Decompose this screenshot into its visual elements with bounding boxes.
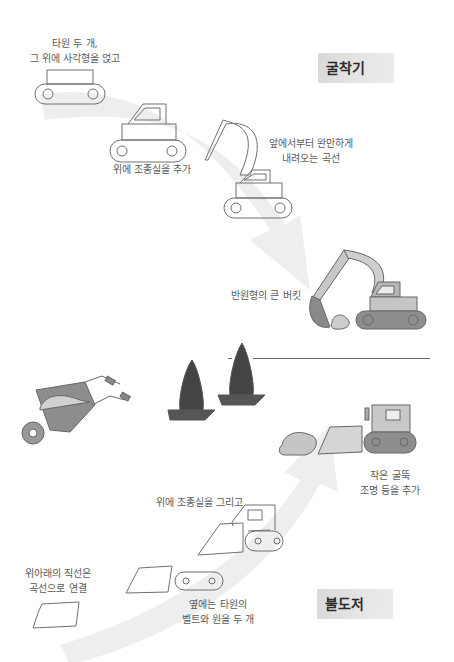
bulldozer-title-tag: 불도저 bbox=[317, 589, 393, 619]
bulldozer-title: 불도저 bbox=[325, 596, 364, 612]
bulldozer-step1-caption: 위아래의 직선은 곡선으로 연결 bbox=[22, 566, 94, 596]
bulldozer-step1-drawing bbox=[0, 0, 454, 662]
